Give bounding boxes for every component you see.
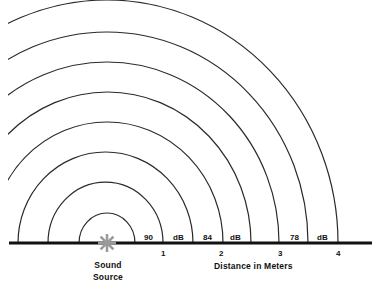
axis-label: Distance in Meters	[214, 262, 293, 271]
level-label-84-unit: dB	[230, 234, 241, 242]
level-label-84-value: 84	[203, 234, 212, 242]
source-label-line2: Source	[88, 273, 128, 282]
tick-label-4: 4	[336, 250, 340, 258]
source-label-line1: Sound	[88, 261, 128, 270]
sound-wave-arcs	[0, 0, 338, 243]
wave-arc-6	[0, 62, 279, 243]
wave-arc-3	[18, 152, 193, 243]
wave-arc-8	[0, 0, 338, 243]
wave-arc-7	[0, 32, 308, 243]
starburst-icon	[98, 234, 116, 252]
sound-wave-diagram	[0, 0, 380, 287]
level-label-90-unit: dB	[173, 234, 184, 242]
source-label: Sound Source	[88, 261, 128, 281]
tick-label-3: 3	[278, 250, 282, 258]
level-label-78-unit: dB	[317, 234, 328, 242]
tick-label-1: 1	[161, 250, 165, 258]
level-label-78-value: 78	[290, 234, 299, 242]
tick-label-2: 2	[219, 250, 223, 258]
level-label-90-value: 90	[144, 234, 153, 242]
